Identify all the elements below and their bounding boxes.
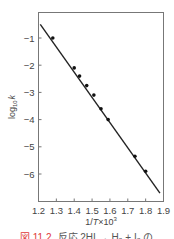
x-tick-label: 1.9 — [157, 205, 170, 216]
x-tick-label: 1.8 — [139, 205, 152, 216]
data-point — [85, 84, 89, 88]
x-tick-label: 1.2 — [32, 205, 45, 216]
data-point — [133, 155, 137, 159]
data-point — [144, 169, 148, 173]
figure-caption: 図 11.2反応 2HI → H₂ + I₂ の — [20, 229, 153, 239]
data-point — [99, 107, 103, 111]
x-tick-label: 1.3 — [50, 205, 63, 216]
x-axis-label: 1/T×103 — [85, 216, 117, 227]
data-point — [78, 74, 82, 78]
y-axis-label: log10k — [7, 94, 18, 119]
data-points — [51, 36, 147, 173]
y-tick-label: −5 — [24, 141, 35, 152]
y-tick-label: −3 — [24, 87, 35, 98]
arrhenius-chart: −1−2−3−4−5−6 1.21.31.41.51.61.71.81.9 1/… — [0, 0, 174, 229]
figure-number: 図 11.2 — [20, 232, 52, 239]
x-tick-label: 1.4 — [68, 205, 81, 216]
y-tick-label: −6 — [24, 169, 35, 180]
y-tick-label: −2 — [24, 60, 35, 71]
x-tick-label: 1.6 — [103, 205, 116, 216]
data-point — [72, 66, 76, 70]
y-tick-label: −1 — [24, 33, 35, 44]
data-point — [51, 36, 55, 40]
x-tick-label: 1.7 — [121, 205, 134, 216]
x-tick-label: 1.5 — [85, 205, 98, 216]
data-point — [106, 118, 110, 122]
y-tick-label: −4 — [24, 114, 35, 125]
caption-text: 反応 2HI → H₂ + I₂ の — [58, 232, 154, 239]
data-point — [92, 93, 96, 97]
